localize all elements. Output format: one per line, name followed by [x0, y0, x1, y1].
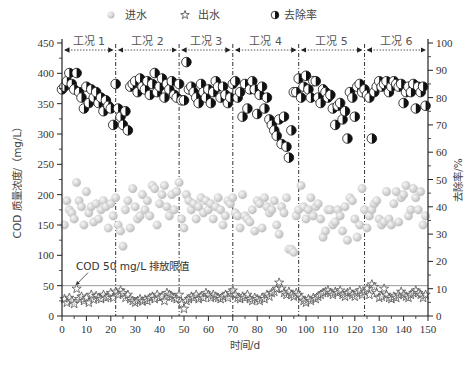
x-tick-label: 90 [276, 323, 288, 335]
legend-item-effluent: 出水 [181, 8, 220, 22]
removal-rate-point [284, 153, 294, 163]
x-tick-label: 50 [179, 323, 191, 335]
phase-annotations: 工况 1工况 2工况 3工况 4工况 5工况 6 [65, 35, 425, 316]
influent-point [260, 193, 269, 202]
removal-rate-point [260, 104, 270, 114]
removal-rate-point [287, 126, 297, 136]
influent-point [353, 233, 362, 242]
influent-point [321, 227, 330, 236]
removal-rate-point [123, 126, 133, 136]
discharge-limit: COD 50 mg/L 排放限值 [62, 260, 428, 286]
removal-rate-point [296, 93, 306, 103]
y2-tick-label: 60 [436, 146, 448, 158]
y2-tick-label: 70 [436, 119, 448, 131]
removal-rate-point [311, 76, 321, 86]
y2-tick-label: 10 [436, 283, 448, 295]
removal-rate-point [279, 112, 289, 122]
removal-rate-point [348, 93, 358, 103]
influent-point [63, 196, 72, 205]
removal-rate-point [326, 90, 336, 100]
influent-point [419, 221, 428, 230]
removal-rate-point [343, 134, 353, 144]
influent-point [214, 193, 223, 202]
influent-point [221, 212, 230, 221]
influent-point [348, 196, 357, 205]
influent-point [77, 203, 86, 212]
y-tick-label: 100 [38, 249, 55, 261]
influent-point [316, 215, 325, 224]
y-tick-label: 400 [38, 67, 55, 79]
influent-point [158, 190, 167, 199]
influent-point [399, 190, 408, 199]
y-tick-label: 200 [38, 189, 55, 201]
influent-point [336, 212, 345, 221]
influent-point [297, 181, 306, 190]
legend-item-influent: 进水 [108, 9, 148, 22]
removal-rate-point [421, 101, 431, 111]
half-circle-icon [271, 11, 279, 19]
removal-rate-point [121, 106, 131, 116]
influent-point [307, 193, 316, 202]
phase-label: 工况 5 [315, 35, 348, 48]
influent-point [109, 212, 118, 221]
y2-tick-label: 50 [436, 174, 448, 186]
influent-point [272, 221, 281, 230]
removal-rate-point [399, 98, 409, 108]
x-tick-label: 120 [347, 323, 364, 335]
x-tick-label: 70 [227, 323, 239, 335]
influent-point [146, 212, 155, 221]
removal-rate-point [243, 104, 253, 114]
influent-point [209, 215, 218, 224]
influent-point [160, 181, 169, 190]
influent-point [104, 224, 113, 233]
removal-rate-point [418, 82, 428, 92]
star-icon [181, 11, 190, 19]
removal-rate-point [350, 112, 360, 122]
x-tick-label: 100 [298, 323, 315, 335]
influent-point [80, 221, 89, 230]
phase-label: 工况 4 [249, 35, 282, 48]
influent-point [192, 215, 201, 224]
influent-point [270, 196, 279, 205]
influent-point [219, 221, 228, 230]
legend-label-removal: 去除率 [284, 8, 317, 22]
phase-label: 工况 3 [190, 35, 223, 48]
removal-rate-point [282, 142, 292, 152]
phase-label: 工况 6 [380, 35, 413, 48]
y-tick-label: 50 [43, 280, 55, 292]
removal-rate-point [340, 106, 350, 116]
influent-point [72, 178, 81, 187]
y-tick-label: 450 [38, 37, 55, 49]
influent-point [124, 196, 133, 205]
y-tick-label: 300 [38, 128, 55, 140]
y2-tick-label: 40 [436, 201, 448, 213]
influent-point [126, 224, 135, 233]
influent-point [94, 215, 103, 224]
removal-rate-point [111, 79, 121, 89]
removal-rate-point [108, 120, 118, 130]
y2-tick-label: 0 [436, 310, 442, 322]
x-tick-label: 30 [130, 323, 142, 335]
influent-point [382, 187, 391, 196]
influent-point [372, 196, 381, 205]
x-tick-label: 10 [81, 323, 93, 335]
influent-point [258, 224, 267, 233]
x-tick-label: 80 [252, 323, 264, 335]
influent-point [82, 187, 91, 196]
removal-rate-point [367, 134, 377, 144]
influent-point [282, 193, 291, 202]
influent-point [290, 248, 299, 257]
y2-tick-label: 20 [436, 255, 448, 267]
x-axis-title: 时间/d [230, 339, 260, 351]
influent-point [119, 242, 128, 251]
influent-point [180, 224, 189, 233]
influent-point [280, 209, 289, 218]
y2-tick-label: 80 [436, 92, 448, 104]
removal-rate-point [179, 96, 189, 106]
x-tick-label: 130 [371, 323, 388, 335]
phase-label: 工况 1 [73, 35, 106, 48]
removal-rate-point [182, 57, 192, 67]
influent-point [128, 184, 137, 193]
influent-point [229, 193, 238, 202]
influent-point [416, 187, 425, 196]
